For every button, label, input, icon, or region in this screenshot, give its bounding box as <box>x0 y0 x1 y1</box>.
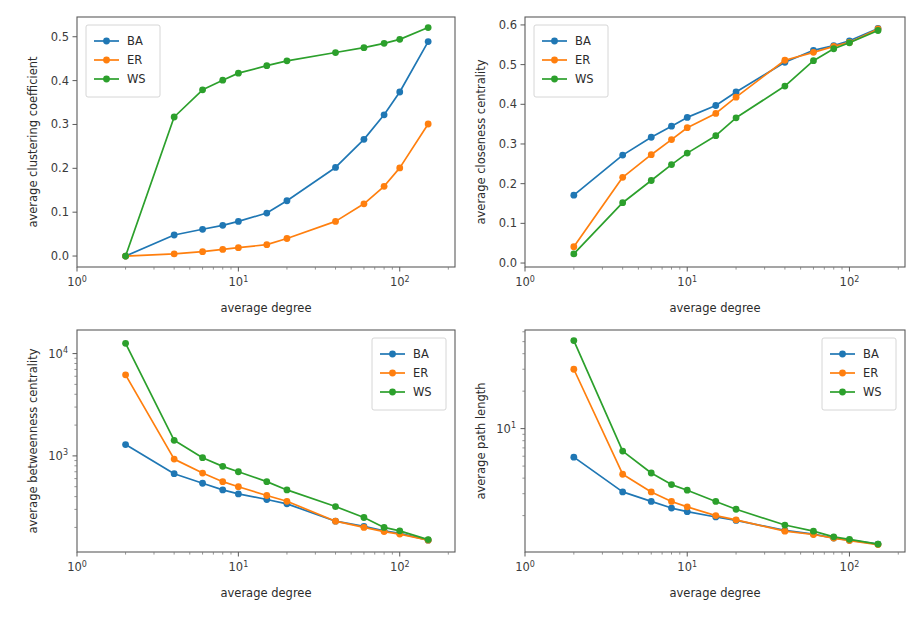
marker-BA <box>684 508 691 515</box>
marker-ER <box>781 57 788 64</box>
marker-BA <box>199 226 206 233</box>
tick-label: 102 <box>390 275 410 290</box>
marker-WS <box>875 27 882 34</box>
tick-label: 100 <box>515 275 535 290</box>
legend-label-BA: BA <box>413 347 429 361</box>
legend-marker-ER <box>103 57 110 64</box>
legend-label-WS: WS <box>127 72 146 86</box>
marker-WS <box>235 468 242 475</box>
tick-label: 101 <box>677 275 697 290</box>
plot-series-group <box>570 337 881 548</box>
y-axis: 0.00.10.20.30.40.50.6 <box>499 18 525 270</box>
legend-marker-WS <box>103 76 110 83</box>
tick-label: 102 <box>840 275 860 290</box>
legend-label-ER: ER <box>575 53 590 67</box>
line-ER <box>126 124 429 256</box>
marker-BA <box>171 470 178 477</box>
legend-label-BA: BA <box>575 34 591 48</box>
marker-ER <box>263 492 270 499</box>
line-ER <box>574 29 878 247</box>
marker-BA <box>122 441 129 448</box>
tick-label: 103 <box>48 448 68 463</box>
x-axis-label: average degree <box>220 586 311 600</box>
tick-label: 101 <box>229 275 249 290</box>
line-WS <box>574 30 878 253</box>
tick-label: 0.4 <box>499 97 517 111</box>
y-axis-label: average closeness centrality <box>474 59 488 224</box>
tick-label: 100 <box>515 560 535 575</box>
marker-BA <box>396 530 403 537</box>
marker-WS <box>781 83 788 90</box>
marker-WS <box>648 177 655 184</box>
marker-ER <box>619 174 626 181</box>
marker-ER <box>122 253 129 260</box>
marker-WS <box>668 481 675 488</box>
marker-BA <box>381 527 388 534</box>
legend-marker-ER <box>551 57 558 64</box>
legend-label-ER: ER <box>413 366 428 380</box>
marker-ER <box>171 456 178 463</box>
marker-BA <box>396 89 403 96</box>
axes-frame <box>525 17 905 267</box>
marker-WS <box>781 522 788 529</box>
marker-BA <box>619 489 626 496</box>
marker-ER <box>219 246 226 253</box>
axes-frame <box>77 330 455 552</box>
marker-ER <box>570 243 577 250</box>
x-axis-label: average degree <box>669 586 760 600</box>
marker-BA <box>361 136 368 143</box>
x-axis: 100101102 <box>67 267 448 289</box>
x-axis: 100101102 <box>515 267 898 289</box>
marker-ER <box>361 200 368 207</box>
marker-BA <box>263 496 270 503</box>
y-axis-label: average betweenness centrality <box>26 348 40 533</box>
x-axis-label: average degree <box>669 301 760 315</box>
marker-BA <box>570 192 577 199</box>
marker-WS <box>648 470 655 477</box>
marker-WS <box>425 536 432 543</box>
legend-frame <box>372 338 446 410</box>
tick-label: 0.2 <box>499 177 517 191</box>
marker-ER <box>648 489 655 496</box>
marker-BA <box>712 102 719 109</box>
marker-BA <box>648 498 655 505</box>
line-WS <box>574 341 878 545</box>
marker-ER <box>781 528 788 535</box>
marker-ER <box>619 471 626 478</box>
marker-WS <box>810 528 817 535</box>
marker-BA <box>570 454 577 461</box>
legend-label-ER: ER <box>127 53 142 67</box>
marker-ER <box>830 535 837 542</box>
marker-ER <box>810 49 817 56</box>
marker-ER <box>219 478 226 485</box>
legend-marker-BA <box>103 38 110 45</box>
marker-BA <box>781 59 788 66</box>
tick-label: 0.0 <box>499 256 517 270</box>
y-axis: 0.00.10.20.30.40.5 <box>51 30 77 263</box>
axes-frame <box>77 17 455 267</box>
tick-label: 0.5 <box>499 58 517 72</box>
legend-marker-WS <box>551 76 558 83</box>
marker-ER <box>733 94 740 101</box>
marker-ER <box>830 43 837 50</box>
marker-WS <box>810 57 817 64</box>
marker-ER <box>235 483 242 490</box>
marker-WS <box>570 251 577 258</box>
tick-label: 0.1 <box>499 216 517 230</box>
marker-WS <box>619 199 626 206</box>
plot-series-group <box>122 24 431 259</box>
marker-BA <box>668 505 675 512</box>
marker-BA <box>648 134 655 141</box>
line-BA <box>126 445 429 541</box>
marker-BA <box>810 531 817 538</box>
marker-WS <box>668 161 675 168</box>
legend-label-ER: ER <box>863 366 878 380</box>
axes-frame <box>525 330 905 552</box>
marker-WS <box>619 448 626 455</box>
marker-WS <box>219 463 226 470</box>
marker-BA <box>668 123 675 130</box>
marker-WS <box>684 150 691 157</box>
tick-label: 0.0 <box>51 249 69 263</box>
marker-ER <box>199 470 206 477</box>
line-WS <box>126 343 429 539</box>
